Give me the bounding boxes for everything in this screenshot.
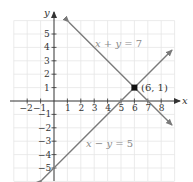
y-axis-label: y [43,7,50,18]
svg-text:−2: −2 [20,103,33,113]
line-x-minus-y-eq-5 [42,50,172,180]
intersection-point-label: (6, 1) [141,82,168,93]
svg-text:−1: −1 [38,109,51,119]
svg-text:2: 2 [44,69,50,79]
x-axis-label: x [182,95,188,106]
svg-text:−4: −4 [38,150,52,160]
svg-text:1: 1 [65,103,71,113]
equation-label-x-plus-y-eq-7: x + y = 7 [95,38,142,49]
svg-text:5: 5 [44,29,50,39]
svg-text:5: 5 [119,103,125,113]
svg-text:3: 3 [44,56,50,66]
svg-text:1: 1 [44,83,50,93]
svg-text:6: 6 [132,103,138,113]
graph-canvas: x y −2 −1 1 2 3 4 5 6 7 8 [0,0,193,182]
svg-text:−3: −3 [38,136,52,146]
svg-text:4: 4 [44,42,50,52]
svg-text:2: 2 [78,103,84,113]
svg-text:8: 8 [159,103,165,113]
intersection-point [131,85,137,91]
svg-text:3: 3 [92,103,98,113]
svg-text:−2: −2 [38,123,51,133]
equation-label-x-minus-y-eq-5: x − y = 5 [86,138,133,149]
